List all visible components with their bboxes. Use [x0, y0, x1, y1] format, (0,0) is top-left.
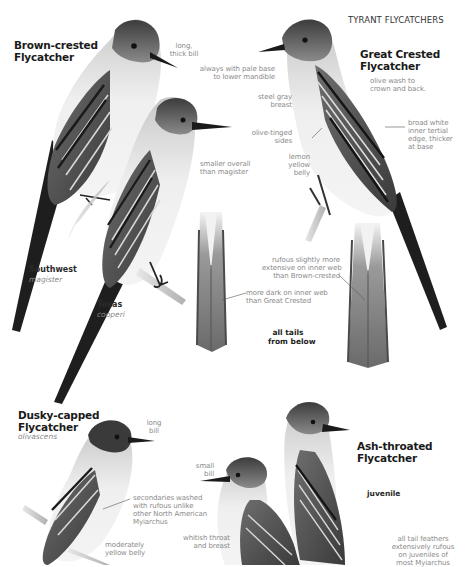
annotation-line: yellow — [270, 161, 310, 169]
annotation-line: olive-tinged — [250, 129, 292, 137]
annotation-olive-tinged-sides: olive-tinged sides — [250, 129, 292, 145]
annotation-moderately-yellow-belly: moderately yellow belly — [105, 541, 145, 557]
annotation-line: lemon — [270, 153, 310, 161]
annotation-line: rufous slightly more — [262, 256, 340, 264]
caption-line: all tails — [268, 328, 308, 337]
title-line: Brown-crested — [14, 39, 98, 51]
caption-line: from below — [268, 337, 308, 346]
annotation-small-bill: small bill — [190, 462, 214, 478]
title-line: Great Crested — [360, 48, 440, 60]
form-label-texas: Texas cooperi — [97, 300, 125, 319]
species-title-ash-throated: Ash-throated Flycatcher — [357, 440, 432, 464]
annotation-line: at base — [408, 143, 453, 151]
annotation-line: sides — [250, 137, 292, 145]
annotation-line: steel gray — [246, 93, 292, 101]
annotation-line: moderately — [105, 541, 145, 549]
subspecies-name: cooperi — [97, 310, 125, 319]
species-title-great-crested: Great Crested Flycatcher — [360, 48, 440, 72]
annotation-line: breast — [246, 101, 292, 109]
annotation-line: bill — [190, 470, 214, 478]
annotation-line: broad white — [408, 119, 453, 127]
title-line: Flycatcher — [360, 60, 440, 72]
form-name: Texas — [97, 300, 125, 310]
annotation-line: than magister — [200, 168, 250, 176]
annotation-line: belly — [270, 169, 310, 177]
annotation-line: inner tertial — [408, 127, 453, 135]
annotation-line: long — [144, 419, 164, 427]
annotation-line: thick bill — [166, 50, 202, 58]
age-label-juvenile: juvenile — [367, 489, 400, 499]
annotation-line: all tail feathers — [385, 535, 461, 543]
annotation-steel-gray-breast: steel gray breast — [246, 93, 292, 109]
annotation-line: Myiarchus — [133, 518, 207, 526]
annotation-long-thick-bill: long, thick bill — [166, 42, 202, 58]
annotation-line: smaller overall — [200, 160, 250, 168]
annotation-line: extensive on inner web — [262, 264, 340, 272]
annotation-whitish-throat: whitish throat and breast — [170, 534, 230, 550]
annotation-line: crown and back. — [370, 85, 426, 93]
species-title-brown-crested: Brown-crested Flycatcher — [14, 39, 98, 63]
annotation-lemon-yellow-belly: lemon yellow belly — [270, 153, 310, 177]
annotation-line: other North American — [133, 510, 207, 518]
annotation-line: edge, thicker — [408, 135, 453, 143]
title-line: Flycatcher — [357, 452, 432, 464]
tails-caption: all tails from below — [268, 328, 308, 346]
tail-brown-crested — [197, 212, 226, 352]
annotation-line: with rufous unlike — [133, 502, 207, 510]
annotation-line: whitish throat — [170, 534, 230, 542]
annotation-tail-great-crested: rufous slightly more extensive on inner … — [262, 256, 340, 280]
annotation-line: always with pale base — [195, 65, 275, 73]
section-header: TYRANT FLYCATCHERS — [348, 15, 444, 25]
ash-throated-juvenile-illustration — [284, 402, 350, 565]
annotation-line: olive wash to — [370, 77, 426, 85]
subspecies-name: magister — [29, 275, 77, 284]
annotation-line: than Great Crested — [246, 297, 328, 305]
annotation-tail-feathers-rufous: all tail feathers extensively rufous on … — [385, 535, 461, 567]
annotation-line: than Brown-crested — [262, 272, 340, 280]
annotation-smaller-overall: smaller overall than magister — [200, 160, 250, 176]
annotation-olive-wash: olive wash to crown and back. — [370, 77, 426, 93]
annotation-line: small — [190, 462, 214, 470]
annotation-line: and breast — [170, 542, 230, 550]
annotation-long-bill: long bill — [144, 419, 164, 435]
form-name: Southwest — [29, 265, 77, 275]
annotation-line: secondaries washed — [133, 494, 207, 502]
annotation-line: most Myiarchus — [385, 559, 461, 567]
annotation-tail-brown-crested: more dark on inner web than Great Creste… — [246, 289, 328, 305]
title-line: Dusky-capped — [18, 409, 99, 421]
species-title-dusky-capped: Dusky-capped Flycatcher — [18, 409, 99, 433]
annotation-line: to lower mandible — [195, 73, 275, 81]
annotation-line: on juveniles of — [385, 551, 461, 559]
annotation-line: long, — [166, 42, 202, 50]
annotation-line: more dark on inner web — [246, 289, 328, 297]
annotation-broad-white-tertial: broad white inner tertial edge, thicker … — [408, 119, 453, 151]
annotation-line: yellow belly — [105, 549, 145, 557]
title-line: Flycatcher — [14, 51, 98, 63]
annotation-secondaries-rufous: secondaries washed with rufous unlike ot… — [133, 494, 207, 526]
subspecies-olivascens: olivascens — [18, 432, 57, 441]
tail-great-crested — [348, 223, 388, 368]
annotation-line: bill — [144, 427, 164, 435]
annotation-pale-base-mandible: always with pale base to lower mandible — [195, 65, 275, 81]
annotation-line: extensively rufous — [385, 543, 461, 551]
form-label-southwest: Southwest magister — [29, 265, 77, 284]
title-line: Ash-throated — [357, 440, 432, 452]
